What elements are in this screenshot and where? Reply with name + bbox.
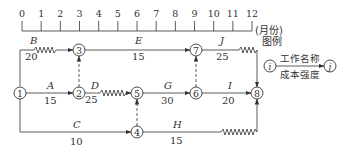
activity-I-name: I: [227, 80, 233, 91]
activity-A-cost: 15: [44, 95, 57, 106]
activity-B-name: B: [29, 35, 37, 46]
tick-label: 11: [227, 8, 239, 19]
activity-G-name: G: [164, 80, 172, 91]
activity-G-cost: 30: [161, 95, 174, 106]
legend-top-label: 工作名称: [280, 53, 320, 64]
tick-label: 2: [57, 8, 63, 19]
node-label: 5: [134, 88, 140, 99]
node-label: 6: [193, 88, 199, 99]
timescale-axis: 0123456789101112 (月份): [19, 8, 283, 36]
node-label: 2: [76, 88, 82, 99]
tick-label: 4: [96, 8, 102, 19]
node-label: 4: [134, 127, 140, 138]
activity-J-cost: 25: [216, 51, 229, 62]
activity-J-name: J: [218, 35, 225, 46]
tick-label: 7: [153, 8, 159, 19]
node-7: 7: [190, 44, 202, 56]
activity-I-cost: 20: [222, 95, 235, 106]
tick-label: 10: [208, 8, 220, 19]
node-8: 8: [251, 87, 263, 99]
tick-label: 3: [76, 8, 82, 19]
activity-B-cost: 20: [25, 51, 38, 62]
activity-E-cost: 15: [132, 51, 145, 62]
node-2: 2: [73, 87, 85, 99]
tick-label: 1: [38, 8, 44, 19]
activity-D-cost: 25: [85, 94, 98, 105]
node-1: 1: [14, 87, 26, 99]
tick-label: 5: [115, 8, 121, 19]
tick-label: 12: [246, 8, 258, 19]
node-3: 3: [73, 44, 85, 56]
node-label: 1: [17, 88, 23, 99]
legend-title: 图例: [262, 35, 282, 47]
activity-C-name: C: [73, 119, 81, 130]
activity-E-name: E: [134, 35, 143, 46]
tick-label: 9: [192, 8, 198, 19]
activity-H-cost: 15: [170, 135, 183, 146]
node-5: 5: [131, 87, 143, 99]
node-4: 4: [131, 126, 143, 138]
activity-D-name: D: [90, 80, 99, 91]
timescale-unit-label: (月份): [255, 25, 283, 36]
activity-H-name: H: [172, 119, 182, 130]
node-label: 7: [193, 45, 199, 56]
tick-label: 0: [19, 8, 25, 19]
legend-bottom-label: 成本强度: [280, 69, 320, 80]
activity-A-name: A: [46, 80, 54, 91]
activity-C-cost: 10: [70, 136, 83, 147]
tick-label: 8: [172, 8, 178, 19]
legend-node-i-label: i: [269, 62, 272, 72]
time-scaled-network-diagram: 0123456789101112 (月份) 12345678 B 20: [0, 0, 348, 156]
node-label: 8: [254, 88, 260, 99]
node-6: 6: [190, 87, 202, 99]
node-label: 3: [76, 45, 82, 56]
legend: 图例 i j 工作名称 成本强度: [262, 35, 336, 80]
tick-label: 6: [134, 8, 140, 19]
